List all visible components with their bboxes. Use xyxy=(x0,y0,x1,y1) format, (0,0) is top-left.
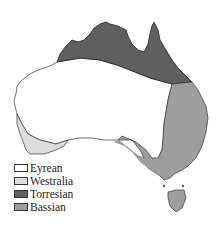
legend-item-torresian: Torresian xyxy=(14,188,73,200)
legend-label: Torresian xyxy=(30,188,73,200)
legend-label: Eyrean xyxy=(30,162,63,174)
swatch-torresian xyxy=(14,190,28,198)
bass-strait-island xyxy=(182,185,184,187)
map-legend: Eyrean Westralia Torresian Bassian xyxy=(14,162,73,214)
region-bassian-tasmania xyxy=(168,190,186,212)
swatch-bassian xyxy=(14,203,28,211)
legend-item-eyrean: Eyrean xyxy=(14,162,73,174)
swatch-eyrean xyxy=(14,164,28,172)
bass-strait-island xyxy=(163,185,165,187)
legend-item-bassian: Bassian xyxy=(14,201,73,213)
swatch-westralia xyxy=(14,177,28,185)
legend-item-westralia: Westralia xyxy=(14,175,73,187)
legend-label: Westralia xyxy=(30,175,73,187)
legend-label: Bassian xyxy=(30,201,66,213)
